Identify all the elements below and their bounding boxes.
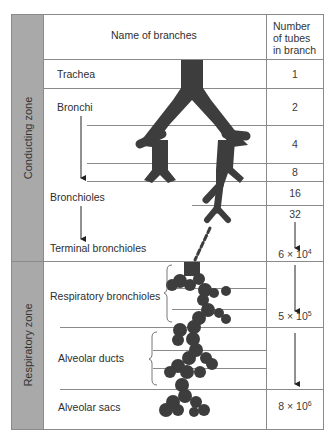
brace-alveolar-ducts	[149, 332, 157, 385]
respiratory-airways	[159, 262, 231, 417]
airway-tree-illustration	[0, 0, 336, 435]
brace-respiratory-bronchioles	[164, 265, 172, 322]
conducting-airways	[136, 60, 248, 260]
